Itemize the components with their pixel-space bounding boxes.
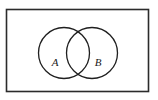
set-label-b: B	[95, 56, 102, 68]
venn-diagram-canvas: A B	[0, 0, 158, 100]
venn-diagram-figure: A B	[0, 0, 158, 100]
set-label-a: A	[51, 56, 59, 68]
universal-set-rectangle	[7, 10, 149, 92]
